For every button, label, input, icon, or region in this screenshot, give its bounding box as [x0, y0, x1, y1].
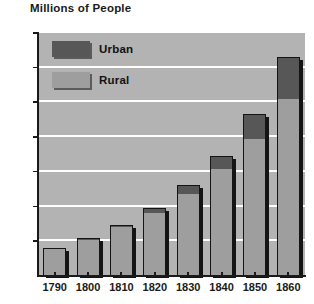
x-axis-tick-1810 — [120, 272, 122, 276]
bar-segment-rural-1800[interactable] — [77, 238, 100, 275]
bar-segment-urban-1820[interactable] — [143, 208, 166, 212]
y-axis-tick-30 — [33, 67, 38, 69]
x-axis-tick-1790 — [54, 272, 56, 276]
bar-segment-urban-1790[interactable] — [43, 248, 66, 249]
gridline-35 — [38, 31, 305, 33]
bar-segment-rural-1810[interactable] — [110, 225, 133, 275]
x-axis-line — [37, 275, 306, 277]
plot-area: Urban Rural — [38, 32, 305, 275]
y-axis-tick-5 — [33, 240, 38, 242]
bar-1860[interactable] — [277, 57, 300, 275]
bar-1850[interactable] — [243, 114, 266, 275]
x-axis-tick-1820 — [154, 272, 156, 276]
bar-1830[interactable] — [177, 185, 200, 275]
bar-segment-urban-1810[interactable] — [110, 225, 133, 227]
bar-1840[interactable] — [210, 156, 233, 275]
legend-label-urban: Urban — [99, 43, 133, 55]
bar-segment-rural-1840[interactable] — [210, 156, 233, 275]
bar-segment-urban-1840[interactable] — [210, 156, 233, 169]
bar-segment-rural-1820[interactable] — [143, 208, 166, 275]
bar-segment-urban-1830[interactable] — [177, 185, 200, 193]
bar-1810[interactable] — [110, 225, 133, 275]
legend-item-urban[interactable]: Urban — [52, 40, 133, 57]
chart-title: Millions of People — [30, 2, 140, 15]
bar-segment-urban-1850[interactable] — [243, 114, 266, 139]
legend-swatch-rural-icon — [52, 72, 90, 88]
chart-figure: Millions of People Urban Rural 510152025… — [0, 0, 314, 304]
x-axis-tick-1840 — [221, 272, 223, 276]
y-axis-tick-10 — [33, 206, 38, 208]
x-axis-label-1860: 1860 — [268, 281, 308, 293]
x-axis-tick-1850 — [254, 272, 256, 276]
x-axis-tick-1800 — [87, 272, 89, 276]
x-axis-tick-1830 — [187, 272, 189, 276]
y-axis-tick-25 — [33, 101, 38, 103]
bar-1820[interactable] — [143, 208, 166, 275]
y-axis-tick-20 — [33, 136, 38, 138]
chart-legend: Urban Rural — [52, 40, 133, 102]
bar-1790[interactable] — [43, 248, 66, 275]
bar-segment-rural-1790[interactable] — [43, 248, 66, 275]
y-axis-tick-15 — [33, 171, 38, 173]
bar-1800[interactable] — [77, 238, 100, 275]
bar-segment-rural-1830[interactable] — [177, 185, 200, 275]
bar-segment-urban-1860[interactable] — [277, 57, 300, 99]
y-axis-tick-35 — [33, 32, 38, 34]
bar-segment-urban-1800[interactable] — [77, 238, 100, 240]
legend-item-rural[interactable]: Rural — [52, 71, 133, 88]
legend-swatch-urban-icon — [52, 41, 90, 57]
x-axis-tick-1860 — [287, 272, 289, 276]
legend-label-rural: Rural — [99, 74, 129, 86]
